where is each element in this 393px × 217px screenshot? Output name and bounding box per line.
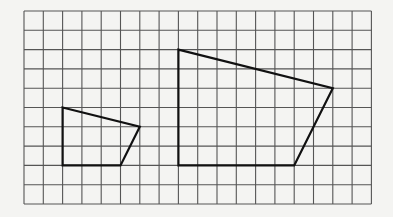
grid-diagram bbox=[0, 0, 393, 217]
